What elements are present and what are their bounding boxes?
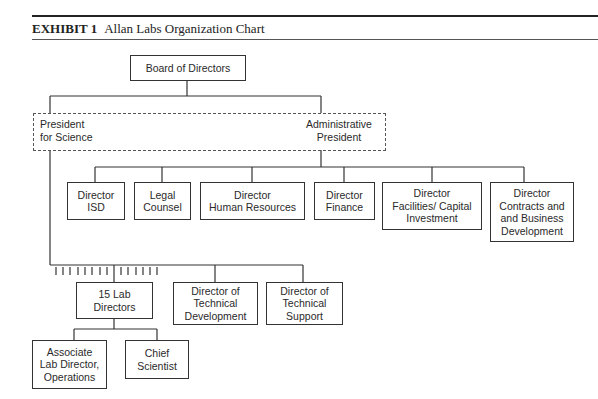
lab-directors-box: 15 Lab Directors [76, 282, 153, 319]
director-technical-development-box: Director of Technical Development [173, 282, 258, 325]
director-contracts-box: Director Contracts and and Business Deve… [490, 182, 574, 242]
director-facilities-box: Director Facilities/ Capital Investment [382, 182, 482, 230]
director-isd-box: Director ISD [67, 182, 125, 220]
legal-counsel-box: Legal Counsel [134, 182, 191, 220]
president-for-science-label: President for Science [40, 118, 93, 143]
administrative-president-label: Administrative President [306, 118, 372, 143]
director-technical-support-box: Director of Technical Support [266, 282, 343, 325]
director-human-resources-box: Director Human Resources [200, 182, 305, 220]
director-finance-box: Director Finance [314, 182, 375, 220]
associate-lab-director-box: Associate Lab Director, Operations [32, 340, 107, 389]
chief-scientist-box: Chief Scientist [125, 340, 189, 379]
board-of-directors-box: Board of Directors [130, 55, 246, 81]
